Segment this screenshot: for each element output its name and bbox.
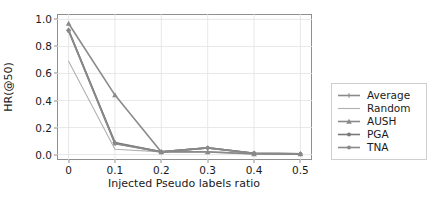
x-tick-label: 0.2 [153, 165, 170, 176]
legend-marker-triangle-icon [336, 115, 362, 128]
chart-figure: HR(@50) Injected Pseudo labels ratio 0.0… [0, 0, 434, 209]
y-tick-label: 0.8 [35, 41, 52, 52]
legend-item-random[interactable]: Random [336, 102, 421, 115]
y-tick-label: 0.4 [35, 95, 52, 106]
x-tick-mark [114, 160, 115, 163]
legend-label: Average [367, 90, 410, 101]
y-tick-label: 1.0 [35, 14, 52, 25]
legend-marker-circle-icon [336, 141, 362, 154]
x-tick-mark [254, 160, 255, 163]
chart-legend: AverageRandomAUSHPGATNA [331, 83, 427, 160]
x-tick-label: 0.3 [199, 165, 216, 176]
y-tick-mark [54, 154, 57, 155]
plot-area: 0.00.20.40.60.81.0 00.10.20.30.40.5 [57, 14, 312, 160]
y-tick-label: 0.2 [35, 122, 52, 133]
y-tick-mark [54, 100, 57, 101]
x-tick-label: 0.4 [246, 165, 263, 176]
x-tick-label: 0.5 [292, 165, 309, 176]
legend-label: TNA [367, 142, 388, 153]
x-tick-mark [161, 160, 162, 163]
x-axis-label: Injected Pseudo labels ratio [108, 177, 260, 190]
x-tick-mark [300, 160, 301, 163]
y-tick-mark [54, 19, 57, 20]
legend-item-aush[interactable]: AUSH [336, 115, 421, 128]
y-tick-mark [54, 46, 57, 47]
legend-item-tna[interactable]: TNA [336, 141, 421, 154]
legend-item-pga[interactable]: PGA [336, 128, 421, 141]
legend-label: AUSH [367, 116, 396, 127]
legend-marker-none-icon [336, 102, 362, 115]
x-tick-label: 0 [65, 165, 72, 176]
y-axis-label: HR(@50) [2, 62, 15, 112]
legend-marker-plus-icon [336, 89, 362, 102]
x-tick-mark [207, 160, 208, 163]
x-tick-mark [68, 160, 69, 163]
y-tick-label: 0.0 [35, 149, 52, 160]
y-tick-mark [54, 73, 57, 74]
legend-item-average[interactable]: Average [336, 89, 421, 102]
y-tick-label: 0.6 [35, 68, 52, 79]
series-lines [57, 14, 312, 160]
y-tick-mark [54, 127, 57, 128]
legend-marker-circle-icon [336, 128, 362, 141]
legend-label: Random [367, 103, 410, 114]
legend-label: PGA [367, 129, 389, 140]
x-tick-label: 0.1 [107, 165, 124, 176]
